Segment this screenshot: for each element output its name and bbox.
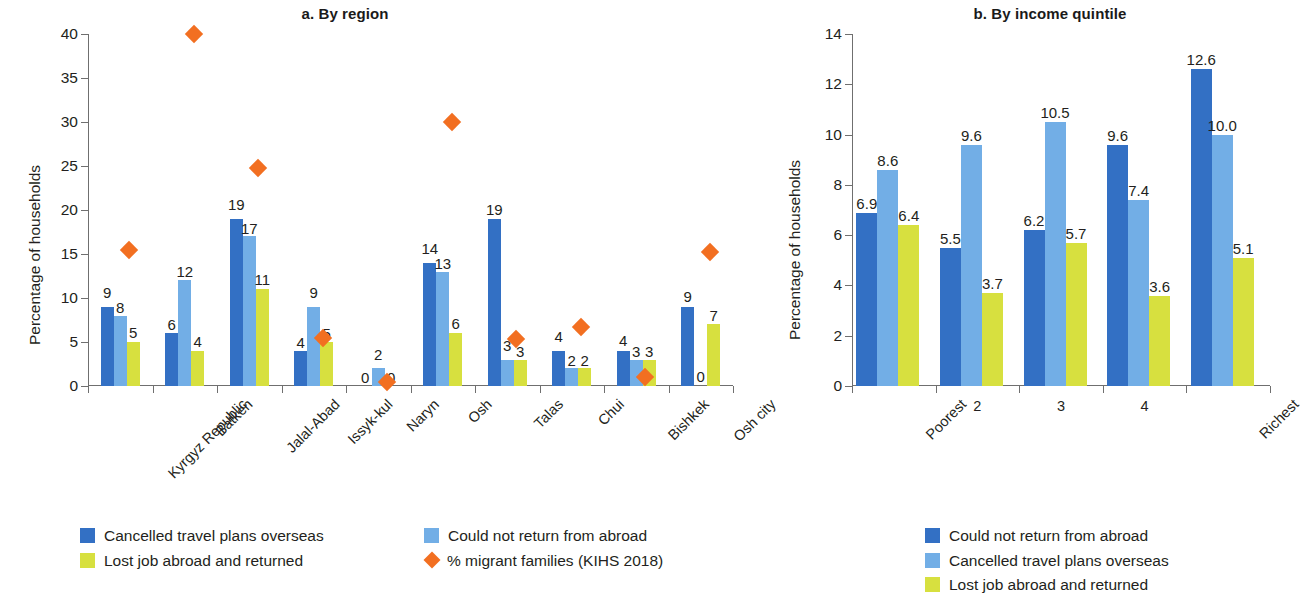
chart-a-x-tick	[217, 386, 218, 393]
chart-a-bar[interactable]: 12	[178, 280, 191, 386]
chart-b-y-tick	[845, 235, 852, 236]
legend-item[interactable]: Could not return from abroad	[424, 528, 647, 544]
chart-b-y-tick	[845, 135, 852, 136]
chart-a-migrant-families-marker[interactable]	[120, 241, 138, 259]
chart-a-x-category-label: Jalal-Abad	[283, 396, 343, 456]
chart-a-bar-value-label: 11	[254, 272, 270, 288]
chart-a-bar-value-label: 9	[310, 285, 318, 301]
legend-item[interactable]: Cancelled travel plans overseas	[80, 528, 410, 544]
chart-a-bar-value-label: 6	[452, 316, 460, 332]
chart-a-bar[interactable]: 19	[230, 219, 243, 386]
chart-a-x-category-label: Naryn	[404, 396, 443, 435]
chart-a-bar[interactable]: 4	[191, 351, 204, 386]
chart-a-x-tick	[475, 386, 476, 393]
chart-a-bar[interactable]: 17	[243, 236, 256, 386]
chart-a-bar[interactable]: 4	[617, 351, 630, 386]
chart-b-x-tick	[936, 386, 937, 393]
chart-a-bar[interactable]: 9	[307, 307, 320, 386]
chart-a-bar[interactable]: 13	[436, 272, 449, 386]
legend-item-label: Lost job abroad and returned	[104, 553, 303, 569]
chart-a-bar[interactable]: 2	[565, 368, 578, 386]
chart-a-y-tick-label: 35	[61, 69, 78, 87]
chart-a-migrant-families-marker[interactable]	[572, 318, 590, 336]
chart-a-migrant-families-marker[interactable]	[249, 159, 267, 177]
chart-a-bar-value-label: 4	[555, 329, 563, 345]
chart-a-y-tick-label: 40	[61, 25, 78, 43]
chart-a-y-tick	[81, 34, 88, 35]
chart-a-x-category-label: Issyk-kul	[344, 396, 395, 447]
chart-b-bar-value-label: 9.6	[1107, 128, 1128, 144]
chart-a-bar-value-label: 19	[486, 202, 503, 218]
chart-a-bar[interactable]: 6	[449, 333, 462, 386]
chart-b-y-tick-label: 2	[833, 327, 842, 345]
chart-b-bar[interactable]: 6.4	[898, 225, 919, 386]
chart-b-x-category-label: 2	[973, 398, 981, 414]
legend-row: Lost job abroad and returned	[925, 577, 1285, 593]
chart-b-y-tick	[845, 84, 852, 85]
chart-b-bar[interactable]: 10.5	[1045, 122, 1066, 386]
chart-a-bar[interactable]: 8	[114, 316, 127, 386]
chart-a-migrant-families-marker[interactable]	[701, 243, 719, 261]
chart-b-bar[interactable]: 5.7	[1066, 243, 1087, 386]
chart-b-y-tick	[845, 386, 852, 387]
chart-b-bar[interactable]: 10.0	[1212, 135, 1233, 386]
chart-a-x-tick	[411, 386, 412, 393]
chart-a-bar[interactable]: 9	[681, 307, 694, 386]
chart-a-bar[interactable]: 4	[552, 351, 565, 386]
chart-b-bar[interactable]: 6.2	[1024, 230, 1045, 386]
chart-b-y-tick	[845, 185, 852, 186]
chart-a-bar[interactable]: 5	[127, 342, 140, 386]
chart-a-bar[interactable]: 6	[165, 333, 178, 386]
chart-b-bar[interactable]: 7.4	[1128, 200, 1149, 386]
chart-a-bar-group: 6124	[165, 280, 204, 386]
chart-b-y-tick-label: 12	[825, 75, 842, 93]
chart-a-bar-value-label: 3	[632, 344, 640, 360]
legend-item[interactable]: % migrant families (KIHS 2018)	[424, 553, 663, 569]
chart-b-bar[interactable]: 5.5	[940, 248, 961, 386]
chart-a-bar[interactable]: 11	[256, 289, 269, 386]
chart-a-migrant-families-marker[interactable]	[185, 25, 203, 43]
chart-b-bar-group: 6.98.66.4	[856, 170, 919, 386]
chart-a-bar[interactable]: 2	[578, 368, 591, 386]
chart-a-y-tick	[81, 122, 88, 123]
chart-b-bar[interactable]: 9.6	[1107, 145, 1128, 386]
chart-a-bar[interactable]: 9	[101, 307, 114, 386]
chart-a-bar[interactable]: 14	[423, 263, 436, 386]
chart-b-bar[interactable]: 9.6	[961, 145, 982, 386]
chart-b-x-tick	[1186, 386, 1187, 393]
chart-a-bar[interactable]: 3	[514, 360, 527, 386]
chart-a-bar[interactable]: 5	[320, 342, 333, 386]
chart-a-bar[interactable]: 7	[707, 324, 720, 386]
legend-item[interactable]: Lost job abroad and returned	[80, 553, 410, 569]
chart-a-x-tick	[88, 386, 89, 393]
chart-a-x-tick	[282, 386, 283, 393]
chart-a-migrant-families-marker[interactable]	[443, 113, 461, 131]
chart-b-bar[interactable]: 3.7	[982, 293, 1003, 386]
chart-a-y-tick	[81, 210, 88, 211]
chart-a-y-tick	[81, 166, 88, 167]
chart-a-legend: Cancelled travel plans overseasCould not…	[80, 528, 720, 577]
chart-a-bar[interactable]: 19	[488, 219, 501, 386]
chart-b-bar[interactable]: 5.1	[1233, 258, 1254, 386]
legend-item[interactable]: Could not return from abroad	[925, 528, 1148, 544]
legend-item[interactable]: Cancelled travel plans overseas	[925, 553, 1169, 569]
legend-item-label: Could not return from abroad	[949, 528, 1148, 544]
legend-item-label: Could not return from abroad	[448, 528, 647, 544]
chart-a-y-axis-line	[88, 34, 89, 386]
chart-b-y-tick	[845, 336, 852, 337]
chart-a-bar[interactable]: 3	[501, 360, 514, 386]
legend-item[interactable]: Lost job abroad and returned	[925, 577, 1148, 593]
chart-b-bar[interactable]: 8.6	[877, 170, 898, 386]
legend-item-label: Cancelled travel plans overseas	[104, 528, 324, 544]
chart-b-bar[interactable]: 3.6	[1149, 296, 1170, 387]
chart-b-bar-value-label: 8.6	[877, 153, 898, 169]
chart-b-bar-group: 12.610.05.1	[1191, 69, 1254, 386]
legend-square-icon	[925, 553, 940, 568]
chart-b-x-tick	[1019, 386, 1020, 393]
chart-a-bar-value-label: 3	[645, 344, 653, 360]
chart-b-bar-value-label: 3.6	[1149, 279, 1170, 295]
legend-item-label: Cancelled travel plans overseas	[949, 553, 1169, 569]
chart-a-x-category-label: Osh	[465, 396, 495, 426]
chart-a-bar[interactable]: 4	[294, 351, 307, 386]
chart-b-bar[interactable]: 6.9	[856, 213, 877, 386]
